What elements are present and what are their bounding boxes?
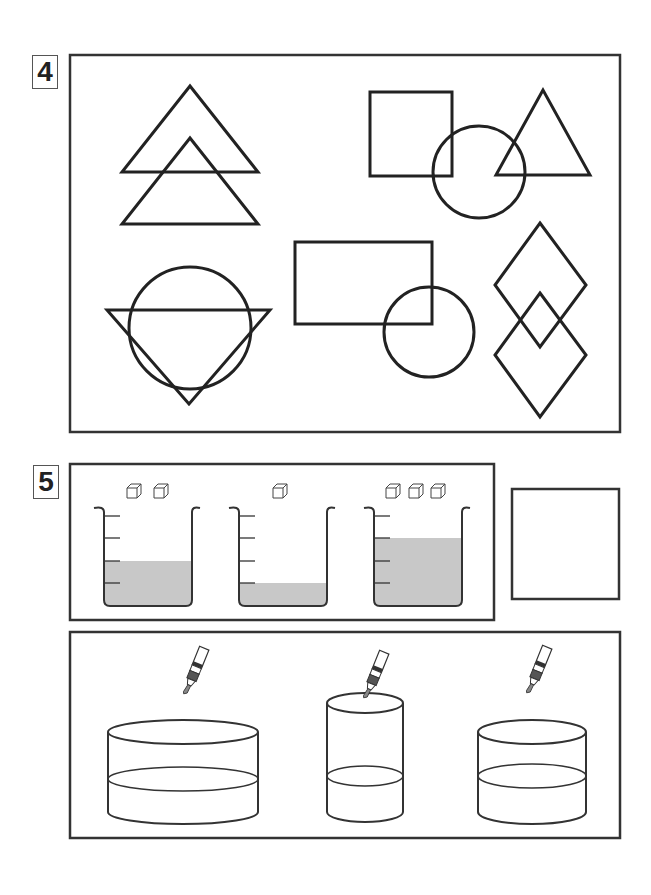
sugar-cube-icon	[431, 484, 445, 498]
dropper-icon	[181, 646, 209, 696]
beaker-1	[94, 484, 200, 606]
rectangle-over-circle	[295, 242, 474, 377]
sugar-cube-icon	[386, 484, 400, 498]
beaker-3	[364, 484, 470, 606]
cylinder-wide	[108, 720, 258, 824]
sugar-cube-icon	[273, 484, 287, 498]
sugar-cube-icon	[409, 484, 423, 498]
beaker-2	[229, 484, 335, 606]
two-overlapping-triangles	[122, 86, 258, 224]
triangle-over-circle	[107, 267, 270, 404]
sugar-cube-icon	[154, 484, 168, 498]
worksheet-drawing	[0, 0, 651, 895]
cylinder-tall	[327, 693, 403, 822]
cylinder-medium	[478, 720, 586, 824]
dropper-icon	[524, 645, 552, 695]
two-overlapping-diamonds	[495, 223, 586, 417]
answer-box[interactable]	[512, 489, 619, 599]
square-circle-triangle	[370, 90, 590, 218]
sugar-cube-icon	[127, 484, 141, 498]
